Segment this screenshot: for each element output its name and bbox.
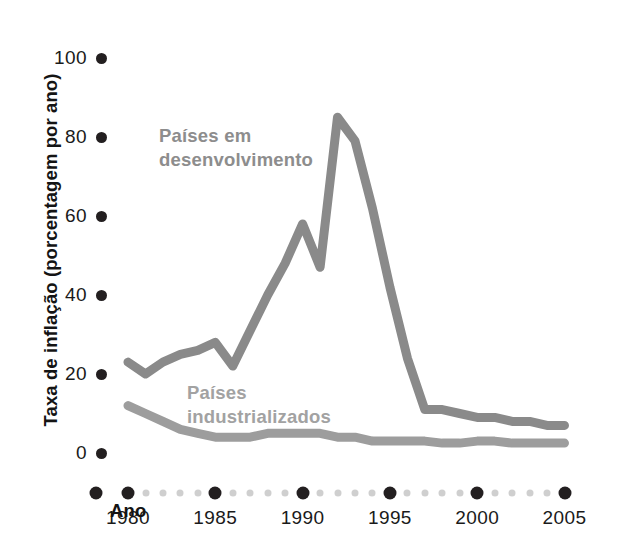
x-minor-dot-icon (456, 490, 463, 497)
x-tick-dot-icon (296, 487, 309, 500)
x-minor-dot-icon (491, 490, 498, 497)
x-minor-dot-icon (526, 490, 533, 497)
x-tick-label-2000: 2000 (455, 507, 499, 529)
x-minor-dot-icon (247, 490, 254, 497)
x-minor-dot-icon (421, 490, 428, 497)
x-minor-dot-icon (439, 490, 446, 497)
x-minor-dot-icon (317, 490, 324, 497)
x-minor-dot-icon (352, 490, 359, 497)
x-minor-dot-icon (509, 490, 516, 497)
axis-origin-dot-icon (90, 487, 103, 500)
x-minor-dot-icon (159, 490, 166, 497)
x-minor-dot-icon (264, 490, 271, 497)
x-tick-dot-icon (471, 487, 484, 500)
x-tick-label-2005: 2005 (543, 507, 587, 529)
x-minor-dot-icon (282, 490, 289, 497)
x-minor-dot-icon (369, 490, 376, 497)
x-tick-label-1995: 1995 (368, 507, 412, 529)
x-minor-dot-icon (194, 490, 201, 497)
x-tick-dot-icon (558, 487, 571, 500)
inflation-rate-chart: Taxa de inflação (porcentagem por ano) 1… (0, 0, 623, 547)
x-tick-label-1990: 1990 (281, 507, 325, 529)
x-minor-dot-icon (334, 490, 341, 497)
x-tick-label-1985: 1985 (193, 507, 237, 529)
x-minor-dot-icon (142, 490, 149, 497)
x-minor-dot-icon (404, 490, 411, 497)
x-axis-ticks: 198019851990199520002005 (0, 0, 623, 547)
x-tick-dot-icon (383, 487, 396, 500)
x-minor-dot-icon (177, 490, 184, 497)
x-minor-dot-icon (229, 490, 236, 497)
x-tick-dot-icon (209, 487, 222, 500)
x-minor-dot-icon (544, 490, 551, 497)
x-tick-dot-icon (122, 487, 135, 500)
x-axis-title: Ano (110, 500, 147, 522)
